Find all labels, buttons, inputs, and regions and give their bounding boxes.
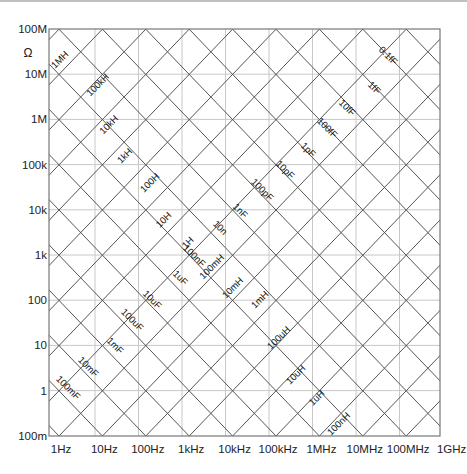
inductance-label: 10H (153, 209, 173, 229)
y-tick-label: 1k (35, 249, 47, 261)
y-tick-label: 1 (41, 385, 47, 397)
x-tick-label: 1GHz (437, 443, 467, 455)
y-tick-label: 1M (31, 113, 47, 125)
inductance-line (0, 0, 467, 362)
capacitance-label: 10fF (337, 97, 358, 118)
inductance-label: 100kH (84, 71, 111, 98)
y-tick-label: 100 (28, 294, 47, 306)
inductance-label: 1MH (49, 48, 71, 70)
x-tick-label: 10MHz (347, 443, 384, 455)
x-tick-label: 100MHz (387, 443, 430, 455)
x-tick-label: 10kHz (218, 443, 251, 455)
y-tick-label: 100M (18, 23, 47, 35)
capacitance-label: 100uF (119, 306, 146, 333)
y-tick-label: 10k (28, 204, 47, 216)
inductance-label: 1nH (371, 455, 391, 474)
capacitance-line (0, 0, 467, 228)
capacitance-label: 1mF (105, 335, 126, 356)
inductance-line (0, 192, 467, 474)
inductance-line (0, 0, 467, 226)
x-tick-label: 1Hz (51, 443, 72, 455)
inductance-label: 10mH (220, 275, 246, 301)
inductance-line (0, 0, 467, 317)
capacitance-label: 10pF (274, 158, 297, 181)
y-tick-label: 10M (25, 68, 47, 80)
capacitance-label: 100nF (181, 242, 208, 269)
y-tick-label: 100m (18, 430, 47, 442)
reactance-chart: 100M10M1M100k10k1k100101100m Ω 1Hz10Hz10… (0, 0, 467, 474)
x-tick-label: 100kHz (259, 443, 298, 455)
capacitance-label: 1pF (299, 140, 318, 159)
capacitance-label: 100fF (315, 115, 340, 140)
inductance-label: 100nH (325, 410, 353, 438)
capacitance-line (0, 465, 467, 474)
capacitance-label: 100mF (54, 373, 83, 402)
x-tick-label: 1MHz (306, 443, 336, 455)
capacitance-line (0, 0, 467, 364)
capacitance-label: 1nF (231, 201, 250, 220)
y-tick-label: 10 (34, 339, 47, 351)
inductance-line (0, 463, 467, 474)
capacitance-line (0, 0, 467, 319)
x-tick-label: 10Hz (91, 443, 118, 455)
capacitance-labels: 0.1fF1fF10fF100fF1pF10pF100pF1nF10n100nF… (54, 44, 400, 402)
inductance-label: 100H (138, 171, 162, 195)
capacitance-line (0, 0, 467, 2)
inductance-line (0, 0, 467, 91)
y-axis-tick-labels: 100M10M1M100k10k1k100101100m (18, 23, 47, 442)
inductance-line (0, 0, 467, 136)
y-tick-label: 100k (22, 159, 47, 171)
x-axis-tick-labels: 1Hz10Hz100Hz1kHz10kHz100kHz1MHz10MHz100M… (51, 443, 467, 455)
inductance-line (0, 11, 467, 474)
x-tick-label: 100Hz (131, 443, 164, 455)
capacitance-line (0, 0, 467, 93)
inductance-label: 10kH (97, 113, 121, 137)
reactance-diagonal-lines (0, 0, 467, 474)
capacitance-line (0, 0, 467, 138)
x-tick-label: 1kHz (178, 443, 204, 455)
capacitance-label: 10n (211, 218, 230, 237)
y-axis-unit-ohm: Ω (24, 46, 33, 60)
capacitance-label: 100pF (249, 176, 276, 203)
